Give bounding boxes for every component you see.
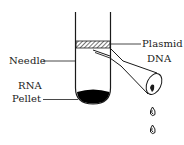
needle-label: Needle	[9, 55, 46, 67]
plasmid-label-line1: Plasmid	[142, 38, 183, 50]
rna-label-line2: Pellet	[12, 93, 41, 105]
diagram-canvas	[0, 0, 184, 145]
plasmid-dna-layer	[76, 41, 110, 48]
droplets	[150, 107, 155, 134]
plasmid-label-line2: DNA	[147, 53, 171, 65]
rna-label-line1: RNA	[18, 80, 42, 92]
